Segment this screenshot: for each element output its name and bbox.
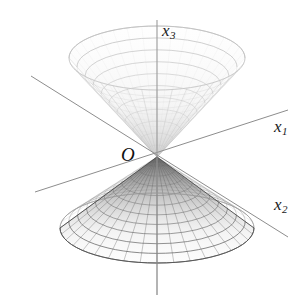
axis-label-x3: x3 xyxy=(162,22,175,39)
axis-label-x2-sub: 2 xyxy=(282,203,288,215)
axis-label-x2-base: x xyxy=(274,195,282,214)
axis-label-x1-base: x xyxy=(274,117,282,136)
cone-figure: x1 x2 x3 O xyxy=(0,0,308,306)
double-cone-diagram xyxy=(0,0,308,306)
axis-label-x2: x2 xyxy=(274,196,287,213)
origin-label: O xyxy=(121,145,135,164)
axis-label-x1: x1 xyxy=(274,118,287,135)
axis-label-x3-sub: 3 xyxy=(170,29,176,41)
axis-label-x3-base: x xyxy=(162,21,170,40)
axis-label-x1-sub: 1 xyxy=(282,125,288,137)
